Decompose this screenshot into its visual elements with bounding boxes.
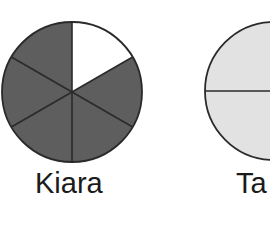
ta-pie-circle — [205, 22, 270, 160]
ta-label: Ta — [236, 166, 267, 200]
kiara-label: Kiara — [35, 166, 103, 200]
kiara-pie-circle — [2, 22, 142, 162]
